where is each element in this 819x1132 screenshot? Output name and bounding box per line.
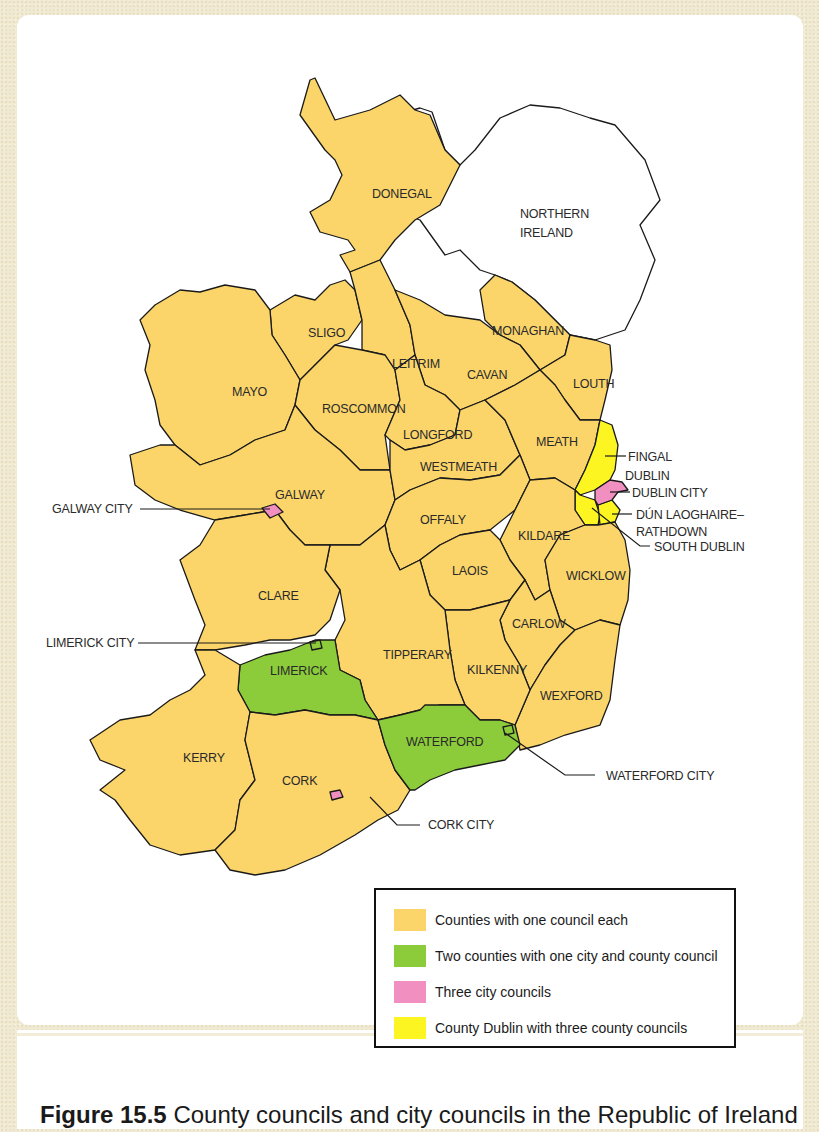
label-wicklow: WICKLOW	[566, 569, 626, 583]
label-kilkenny: KILKENNY	[467, 663, 528, 677]
label-northern-ireland-2: IRELAND	[520, 226, 573, 240]
callout-galway-city: GALWAY CITY	[52, 502, 134, 516]
label-longford: LONGFORD	[403, 428, 472, 442]
callout-fingal: FINGAL	[628, 450, 672, 464]
region-kerry	[90, 650, 255, 855]
label-monaghan: MONAGHAN	[492, 324, 564, 338]
label-westmeath: WESTMEATH	[420, 460, 497, 474]
label-carlow: CARLOW	[512, 617, 566, 631]
callout-dublin-city: DUBLIN CITY	[632, 486, 708, 500]
map-legend: Counties with one council each Two count…	[374, 888, 736, 1048]
label-kerry: KERRY	[183, 751, 226, 765]
label-tipperary: TIPPERARY	[383, 648, 453, 662]
figure-caption: Figure 15.5 County councils and city cou…	[40, 1098, 800, 1132]
label-limerick: LIMERICK	[270, 664, 328, 678]
label-northern-ireland-1: NORTHERN	[520, 207, 589, 221]
figure-caption-text: County councils and city councils in the…	[173, 1101, 797, 1128]
label-sligo: SLIGO	[308, 326, 346, 340]
legend-swatch-city-county	[394, 945, 426, 967]
callout-south-dublin: SOUTH DUBLIN	[654, 540, 745, 554]
label-waterford: WATERFORD	[406, 735, 484, 749]
callout-dublin: DUBLIN	[625, 469, 670, 483]
legend-label: Two counties with one city and county co…	[435, 948, 718, 964]
callout-limerick-city: LIMERICK CITY	[46, 636, 135, 650]
label-kildare: KILDARE	[518, 529, 570, 543]
legend-label: County Dublin with three county councils	[435, 1020, 687, 1036]
callout-cork-city: CORK CITY	[428, 818, 495, 832]
label-mayo: MAYO	[232, 385, 268, 399]
label-meath: MEATH	[536, 435, 578, 449]
label-donegal: DONEGAL	[372, 187, 432, 201]
region-waterford-city	[503, 725, 514, 735]
legend-swatch-dublin	[394, 1017, 426, 1039]
legend-item-city-county: Two counties with one city and county co…	[394, 944, 718, 968]
label-laois: LAOIS	[452, 564, 488, 578]
legend-swatch-city	[394, 981, 426, 1003]
label-cork: CORK	[282, 774, 318, 788]
label-clare: CLARE	[258, 589, 299, 603]
label-galway: GALWAY	[275, 488, 326, 502]
label-louth: LOUTH	[573, 377, 615, 391]
legend-label: Three city councils	[435, 984, 551, 1000]
callout-dun-laoghaire-1: DÚN LAOGHAIRE–	[636, 507, 744, 522]
legend-item-city: Three city councils	[394, 980, 551, 1004]
callout-waterford-city: WATERFORD CITY	[606, 769, 715, 783]
figure-number: Figure 15.5	[40, 1101, 167, 1128]
label-leitrim: LEITRIM	[392, 357, 440, 371]
label-roscommon: ROSCOMMON	[322, 402, 406, 416]
legend-item-dublin: County Dublin with three county councils	[394, 1016, 687, 1040]
label-wexford: WEXFORD	[540, 689, 603, 703]
label-offaly: OFFALY	[420, 513, 467, 527]
label-cavan: CAVAN	[467, 368, 507, 382]
region-limerick-city	[310, 640, 322, 650]
legend-item-county: Counties with one council each	[394, 908, 628, 932]
legend-label: Counties with one council each	[435, 912, 628, 928]
legend-swatch-county	[394, 909, 426, 931]
callout-dun-laoghaire-2: RATHDOWN	[636, 525, 707, 539]
